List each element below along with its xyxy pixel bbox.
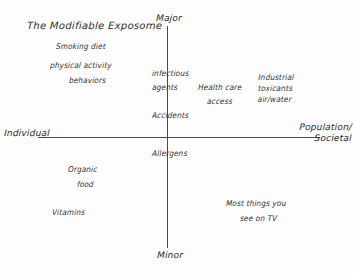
- item-health-care: Health care: [198, 82, 242, 93]
- item-physical-activity: physical activity: [50, 60, 112, 71]
- page-title: The Modifiable Exposome: [27, 19, 163, 32]
- item-infectious: infectious: [152, 68, 189, 79]
- item-agents: agents: [152, 82, 178, 93]
- axis-label-population-societal: Population/ Societal: [296, 122, 353, 144]
- axis-label-minor: Minor: [157, 250, 184, 261]
- item-accidents: Accidents: [152, 110, 189, 121]
- item-most-things-you: Most things you: [226, 198, 287, 209]
- exposome-matrix-diagram: The Modifiable Exposome Major Minor Indi…: [0, 0, 354, 274]
- horizontal-axis: [38, 137, 320, 138]
- axis-label-individual: Individual: [4, 128, 50, 139]
- item-see-on-tv: see on TV: [240, 213, 278, 224]
- item-vitamins: Vitamins: [52, 207, 85, 218]
- item-industrial-toxicants: Industrial toxicants air/water: [257, 72, 294, 105]
- item-organic: Organic: [68, 164, 98, 175]
- item-access: access: [207, 96, 233, 107]
- item-smoking-diet: Smoking diet: [56, 41, 106, 52]
- item-allergens: Allergens: [152, 148, 188, 159]
- item-food: food: [77, 179, 94, 190]
- item-behaviors: behaviors: [69, 75, 107, 86]
- axis-label-major: Major: [156, 13, 182, 24]
